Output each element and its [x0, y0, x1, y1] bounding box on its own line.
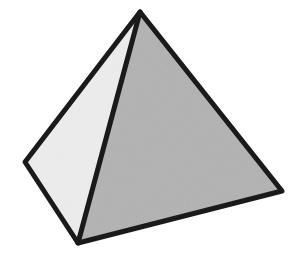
figure-canvas	[0, 0, 301, 253]
pyramid-figure	[0, 0, 301, 253]
